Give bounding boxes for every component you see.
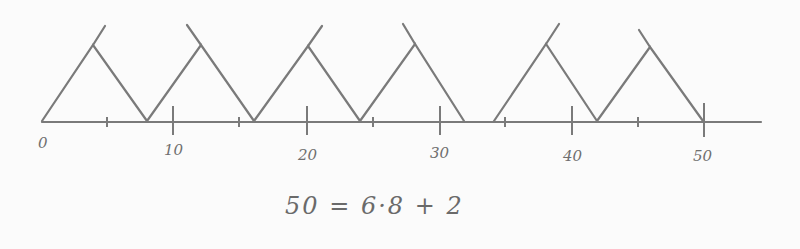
tick-label-50: 50	[693, 147, 713, 165]
tick-label-20: 20	[297, 146, 318, 164]
triangle-5	[494, 44, 597, 121]
triangle-4	[360, 44, 464, 121]
tick-label-30: 30	[430, 144, 450, 162]
tick-label-40: 40	[562, 147, 583, 165]
triangles	[42, 24, 703, 121]
tick-label-0: 0	[38, 134, 48, 152]
triangle-1	[42, 45, 147, 121]
equation-text: 50 = 6·8 + 2	[285, 192, 464, 220]
tick-label-10: 10	[164, 141, 184, 159]
tick-labels: 0 10 20 30 40 50	[38, 134, 713, 165]
triangle-2	[147, 45, 254, 121]
triangle-6	[597, 47, 703, 121]
